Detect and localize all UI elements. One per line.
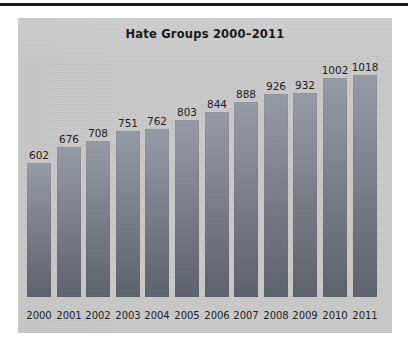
chart-screenshot: Hate Groups 2000–2011 602676708751762803… [0,0,408,346]
bar-2002[interactable] [86,141,110,297]
plot-area: 60267670875176280384488892693210021018 [27,57,383,297]
bar-2004[interactable] [145,129,169,297]
x-axis-tick-2006: 2006 [202,310,232,321]
x-axis-tick-2010: 2010 [320,310,350,321]
x-axis-tick-2001: 2001 [54,310,84,321]
x-axis-tick-2011: 2011 [350,310,380,321]
bar-2010[interactable] [323,78,347,297]
bar-value-label-2010: 1002 [322,64,349,76]
x-axis-tick-2000: 2000 [24,310,54,321]
bar-2011[interactable] [353,75,377,297]
x-axis-tick-labels: 2000200120022003200420052006200720082009… [27,303,383,321]
bar-value-label-2007: 888 [236,88,256,100]
x-axis-tick-2004: 2004 [142,310,172,321]
page-top-rule [0,3,408,6]
x-axis-tick-2005: 2005 [172,310,202,321]
bar-value-label-2008: 926 [266,80,286,92]
bar-2005[interactable] [175,120,199,297]
bar-2000[interactable] [27,163,51,297]
bar-2007[interactable] [234,102,258,297]
x-axis-tick-2009: 2009 [290,310,320,321]
bar-value-label-2009: 932 [295,79,315,91]
bar-2003[interactable] [116,131,140,297]
x-axis-tick-2007: 2007 [231,310,261,321]
bar-2008[interactable] [264,94,288,297]
bar-2006[interactable] [205,112,229,297]
bar-value-label-2006: 844 [207,98,227,110]
bar-2009[interactable] [293,93,317,297]
bar-value-label-2004: 762 [147,115,167,127]
bar-value-label-2005: 803 [177,106,197,118]
bar-value-label-2001: 676 [59,133,79,145]
bar-2001[interactable] [57,147,81,297]
x-axis-tick-2002: 2002 [83,310,113,321]
bar-value-label-2003: 751 [118,117,138,129]
bar-value-label-2000: 602 [29,149,49,161]
bar-value-label-2002: 708 [88,127,108,139]
bar-value-label-2011: 1018 [352,61,379,73]
chart-title: Hate Groups 2000–2011 [18,27,392,41]
chart-panel: Hate Groups 2000–2011 602676708751762803… [18,18,392,333]
x-axis-tick-2008: 2008 [261,310,291,321]
x-axis-tick-2003: 2003 [113,310,143,321]
